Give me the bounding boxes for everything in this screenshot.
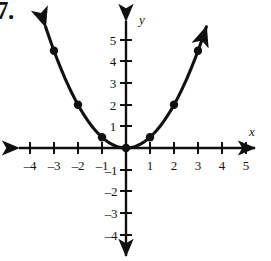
exercise-figure: 7. x [0, 0, 271, 261]
y-axis-label: y [137, 12, 145, 27]
data-point [170, 101, 178, 109]
y-tick-label: –4 [104, 228, 118, 243]
x-axis-label: x [248, 124, 255, 139]
x-axis: x [19, 124, 255, 154]
data-point [50, 47, 58, 55]
y-tick-label: 5 [110, 33, 117, 48]
data-point [98, 133, 106, 141]
data-point [122, 144, 130, 152]
y-tick-label: –1 [104, 163, 117, 178]
data-point [194, 47, 202, 55]
x-tick-label: –4 [23, 158, 37, 173]
x-tick-label: 2 [171, 158, 178, 173]
data-point [146, 133, 154, 141]
y-tick-label: 4 [110, 54, 117, 69]
x-tick-label: –2 [71, 158, 84, 173]
y-tick-label: 3 [110, 76, 117, 91]
x-tick-label: 3 [195, 158, 202, 173]
y-axis: y [120, 12, 145, 256]
data-point [74, 101, 82, 109]
y-tick-label: –3 [104, 206, 117, 221]
x-tick-label: 4 [219, 158, 226, 173]
y-tick-label: –2 [104, 184, 117, 199]
x-tick-label: 5 [243, 158, 250, 173]
coordinate-graph: x y –4 –3 –2 –1 1 2 [0, 0, 271, 261]
x-tick-labels: –4 –3 –2 –1 1 2 3 4 5 [23, 158, 249, 173]
y-tick-label: 2 [110, 98, 117, 113]
y-tick-label: 1 [110, 119, 117, 134]
x-tick-label: –3 [47, 158, 60, 173]
x-tick-label: 1 [147, 158, 154, 173]
